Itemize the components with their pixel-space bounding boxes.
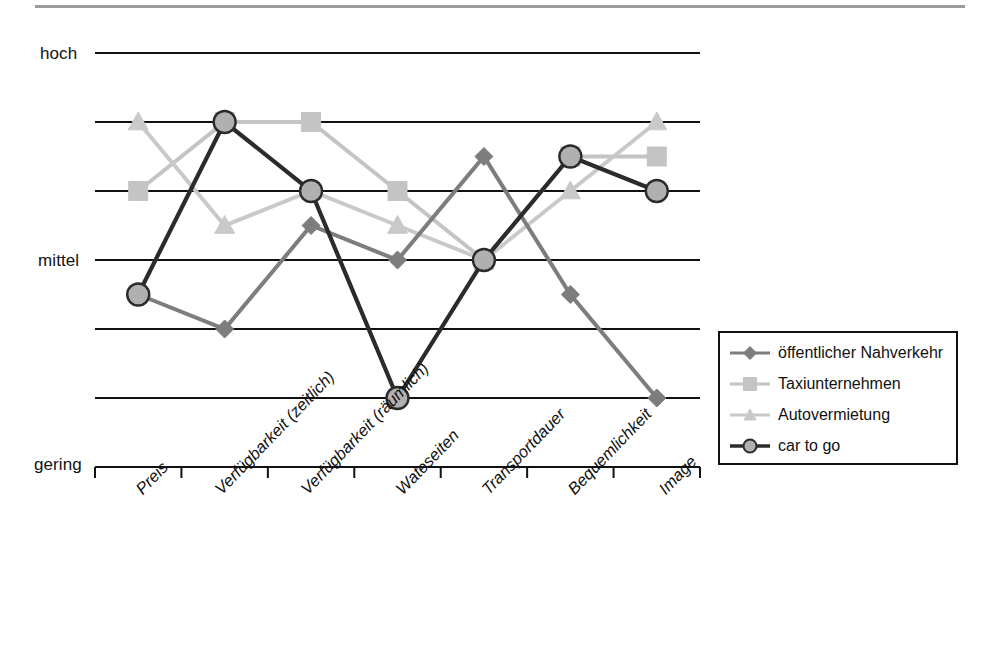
chart-legend: öffentlicher NahverkehrTaxiunternehmenAu… bbox=[718, 331, 958, 465]
data-point bbox=[214, 111, 236, 133]
legend-marker-triangle-icon bbox=[728, 405, 772, 425]
data-point bbox=[300, 180, 322, 202]
legend-label: öffentlicher Nahverkehr bbox=[778, 344, 943, 362]
legend-label: Taxiunternehmen bbox=[778, 375, 901, 393]
data-point bbox=[129, 182, 148, 201]
x-axis-group bbox=[95, 467, 700, 478]
legend-label: car to go bbox=[778, 437, 840, 455]
legend-marker-diamond-icon bbox=[728, 343, 772, 363]
legend-marker-circle-icon bbox=[728, 436, 772, 456]
legend-item-1[interactable]: Taxiunternehmen bbox=[728, 370, 901, 398]
data-point bbox=[559, 146, 581, 168]
data-point bbox=[127, 284, 149, 306]
legend-item-3[interactable]: car to go bbox=[728, 432, 840, 460]
data-point bbox=[647, 147, 666, 166]
data-point bbox=[646, 180, 668, 202]
y-axis-label-middle: mittel bbox=[38, 251, 79, 271]
legend-label: Autovermietung bbox=[778, 406, 890, 424]
y-axis-label-high: hoch bbox=[40, 44, 77, 64]
data-point bbox=[302, 113, 321, 132]
y-axis-label-low: gering bbox=[34, 455, 82, 475]
data-point bbox=[388, 182, 407, 201]
legend-marker-square-icon bbox=[728, 374, 772, 394]
data-point bbox=[473, 249, 495, 271]
line-chart-figure: hoch mittel gering PreisVerfügbarkeit (z… bbox=[0, 0, 998, 668]
legend-item-2[interactable]: Autovermietung bbox=[728, 401, 890, 429]
legend-item-0[interactable]: öffentlicher Nahverkehr bbox=[728, 339, 943, 367]
